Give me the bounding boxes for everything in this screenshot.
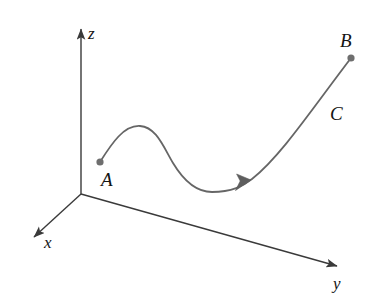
y-axis bbox=[81, 194, 337, 266]
y-axis-label: y bbox=[333, 275, 341, 292]
point-a-dot bbox=[96, 158, 103, 165]
curve-c bbox=[100, 58, 351, 192]
curve-c-label: C bbox=[330, 104, 343, 123]
point-b-label: B bbox=[340, 31, 352, 50]
z-axis-label: z bbox=[88, 25, 95, 42]
x-axis bbox=[34, 194, 81, 237]
x-axis-label: x bbox=[44, 234, 52, 251]
point-a-label: A bbox=[101, 170, 113, 189]
three-d-curve-diagram bbox=[0, 0, 370, 306]
figure-canvas: z x y A B C bbox=[0, 0, 370, 306]
point-b-dot bbox=[347, 54, 354, 61]
